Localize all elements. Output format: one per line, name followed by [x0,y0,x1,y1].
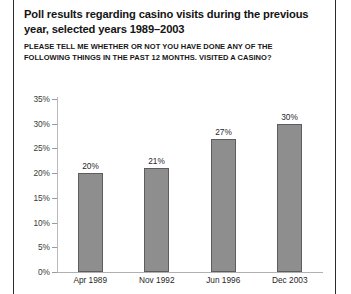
y-axis-label: 30% [4,120,50,128]
y-axis-line [57,97,58,273]
bar [211,139,236,272]
bar [277,124,302,272]
bar-value-label: 21% [130,157,183,166]
chart-figure: Poll results regarding casino visits dur… [0,0,351,294]
y-axis-tick [52,247,57,248]
bar [78,173,103,272]
y-axis-label: 35% [4,95,50,103]
x-axis-label: Dec 2003 [257,276,324,285]
bar [144,168,169,272]
y-axis-label: 25% [4,144,50,152]
x-axis-label: Nov 1992 [124,276,191,285]
y-axis-label: 0% [4,268,50,276]
y-axis-tick [52,148,57,149]
y-axis-tick [52,124,57,125]
bar-value-label: 27% [197,128,250,137]
y-axis-label: 5% [4,243,50,251]
bar-value-label: 20% [64,162,117,171]
y-axis-tick [52,198,57,199]
y-axis-tick [52,99,57,100]
y-axis-label: 15% [4,194,50,202]
bar-value-label: 30% [263,113,316,122]
y-axis-tick [52,223,57,224]
x-axis-line [57,272,323,273]
y-axis-tick [52,272,57,273]
y-axis-tick [52,173,57,174]
x-axis-label: Jun 1996 [190,276,257,285]
plot-area: 0%5%10%15%20%25%30%35% 20%21%27%30% Apr … [0,0,351,294]
x-axis-label: Apr 1989 [57,276,124,285]
y-axis-label: 10% [4,219,50,227]
y-axis-label: 20% [4,169,50,177]
